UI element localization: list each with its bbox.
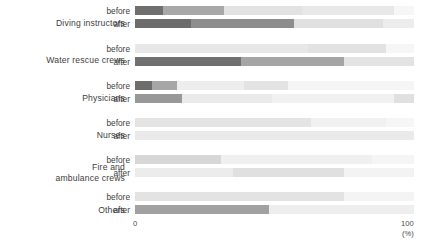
bar-segment: [272, 94, 395, 103]
bar-segment: [163, 6, 224, 15]
bar-others-after: [135, 205, 414, 214]
bar-nurses-after: [135, 131, 414, 140]
bar-segment: [135, 192, 344, 201]
bar-segment: [135, 131, 414, 140]
bar-segment: [311, 118, 386, 127]
bar-segment: [135, 19, 191, 28]
bar-segment: [383, 19, 414, 28]
bar-segment: [233, 168, 345, 177]
bar-segment: [394, 6, 414, 15]
bar-segment: [177, 81, 244, 90]
bar-segment: [135, 94, 182, 103]
x-axis-tick-max: 100: [401, 219, 414, 228]
bar-segment: [244, 81, 289, 90]
bar-segment: [224, 6, 302, 15]
bar-segment: [135, 205, 269, 214]
bar-segment: [386, 118, 414, 127]
subgroup-label-before-4: before: [96, 119, 130, 128]
bar-segment: [182, 94, 271, 103]
bar-water-rescue-crews-before: [135, 44, 414, 53]
bar-segment: [135, 6, 163, 15]
bar-segment: [152, 81, 177, 90]
bar-segment: [135, 155, 221, 164]
bar-fire-and-ambulance-crews-before: [135, 155, 414, 164]
bar-segment: [344, 168, 414, 177]
subgroup-label-before-5: before: [96, 156, 130, 165]
bar-segment: [241, 57, 344, 66]
bar-nurses-before: [135, 118, 414, 127]
subgroup-label-after-1: after: [96, 20, 130, 29]
subgroup-label-before-3: before: [96, 82, 130, 91]
subgroup-label-after-5: after: [96, 169, 130, 178]
bar-diving-instructors-before: [135, 6, 414, 15]
bar-segment: [135, 118, 311, 127]
bar-segment: [344, 57, 414, 66]
bar-segment: [294, 19, 383, 28]
bar-water-rescue-crews-after: [135, 57, 414, 66]
bar-segment: [394, 94, 414, 103]
bar-segment: [135, 44, 308, 53]
bar-segment: [135, 168, 233, 177]
bar-segment: [221, 155, 372, 164]
subgroup-label-before-6: before: [96, 193, 130, 202]
bar-segment: [135, 57, 241, 66]
bar-segment: [344, 192, 414, 201]
bar-diving-instructors-after: [135, 19, 414, 28]
subgroup-label-after-6: after: [96, 206, 130, 215]
subgroup-label-before-1: before: [96, 7, 130, 16]
subgroup-label-after-3: after: [96, 95, 130, 104]
bar-physicians-before: [135, 81, 414, 90]
bar-fire-and-ambulance-crews-after: [135, 168, 414, 177]
stacked-bar-chart: Diving instructors Water rescue crews Ph…: [0, 0, 421, 240]
x-axis-tick-min: 0: [133, 219, 137, 228]
bar-segment: [135, 81, 152, 90]
bar-segment: [386, 44, 414, 53]
bar-segment: [372, 155, 414, 164]
bar-others-before: [135, 192, 414, 201]
subgroup-label-after-4: after: [96, 132, 130, 141]
bar-segment: [288, 81, 414, 90]
subgroup-label-after-2: after: [96, 58, 130, 67]
bar-segment: [191, 19, 294, 28]
subgroup-label-before-2: before: [96, 45, 130, 54]
x-axis-unit-label: (%): [402, 229, 414, 238]
bar-segment: [269, 205, 414, 214]
bar-segment: [308, 44, 386, 53]
bar-segment: [302, 6, 394, 15]
bar-physicians-after: [135, 94, 414, 103]
